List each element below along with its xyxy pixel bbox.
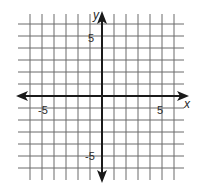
tick-label-y-positive-5: 5 (88, 32, 94, 44)
tick-label-x-positive-5: 5 (157, 104, 163, 116)
x-axis-label: x (183, 97, 191, 111)
coordinate-plane: y x 5 -5 -5 5 (0, 0, 198, 194)
tick-label-y-negative-5: -5 (85, 150, 95, 162)
y-axis-label: y (92, 8, 100, 22)
tick-label-x-negative-5: -5 (38, 104, 48, 116)
